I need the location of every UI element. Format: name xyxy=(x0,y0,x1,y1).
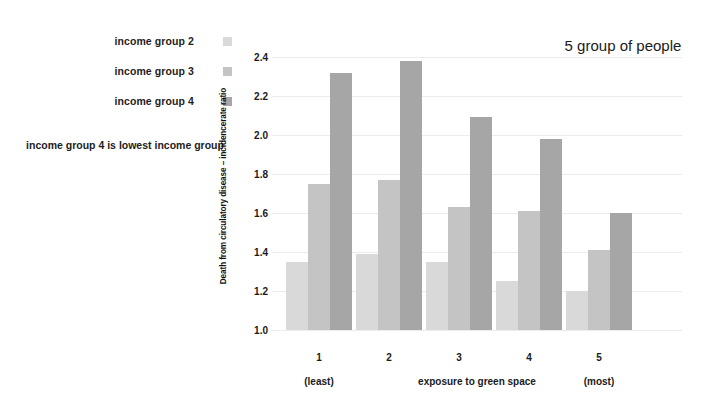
bar xyxy=(496,281,518,330)
bar xyxy=(588,250,610,330)
x-axis-ticks: 12345 xyxy=(272,352,682,368)
legend-label-income-group-3: income group 3 xyxy=(24,65,214,77)
legend-note: income group 4 is lowest income group xyxy=(24,138,232,153)
bar xyxy=(378,180,400,330)
bar xyxy=(308,184,330,330)
y-axis-tick-label: 1.6 xyxy=(232,208,268,219)
bar xyxy=(330,73,352,330)
bar xyxy=(448,207,470,330)
legend-label-income-group-4: income group 4 xyxy=(24,95,214,107)
bar xyxy=(426,262,448,330)
y-axis-tick-label: 2.2 xyxy=(232,91,268,102)
bar-group xyxy=(286,58,352,330)
bars-layer xyxy=(272,46,682,342)
legend-label-income-group-2: income group 2 xyxy=(24,35,214,47)
x-axis-note-least: (least) xyxy=(286,376,352,387)
x-axis-note-most: (most) xyxy=(566,376,632,387)
y-axis-title: Death from circulatory disease – inciden… xyxy=(219,40,233,332)
legend-item-income-group-2: income group 2 xyxy=(24,26,232,56)
y-axis-tick-label: 2.0 xyxy=(232,130,268,141)
y-axis-tick-label: 1.8 xyxy=(232,169,268,180)
y-axis-tick-label: 2.4 xyxy=(232,52,268,63)
bar-group xyxy=(566,58,632,330)
bar xyxy=(286,262,308,330)
bar xyxy=(518,211,540,330)
x-axis-tick-label: 5 xyxy=(566,352,632,363)
legend-item-income-group-4: income group 4 xyxy=(24,86,232,116)
y-axis-tick-label: 1.0 xyxy=(232,325,268,336)
y-axis-tick-label: 1.4 xyxy=(232,247,268,258)
bar xyxy=(400,61,422,330)
x-axis-tick-label: 2 xyxy=(356,352,422,363)
x-axis-tick-label: 4 xyxy=(496,352,562,363)
x-axis-tick-label: 3 xyxy=(426,352,492,363)
y-axis-tick-label: 1.2 xyxy=(232,286,268,297)
y-axis-ticks: 2.42.22.01.81.61.41.21.0 xyxy=(232,46,268,342)
bar xyxy=(566,291,588,330)
bar-group xyxy=(356,58,422,330)
bar-group xyxy=(426,58,492,330)
bar-group xyxy=(496,58,562,330)
legend-item-income-group-3: income group 3 xyxy=(24,56,232,86)
bar xyxy=(356,254,378,330)
bar xyxy=(610,213,632,330)
chart-figure: income group 2 income group 3 income gro… xyxy=(0,0,712,414)
bar xyxy=(470,117,492,330)
chart-legend: income group 2 income group 3 income gro… xyxy=(24,26,232,153)
x-axis-tick-label: 1 xyxy=(286,352,352,363)
plot-area xyxy=(272,46,682,342)
bar xyxy=(540,139,562,330)
